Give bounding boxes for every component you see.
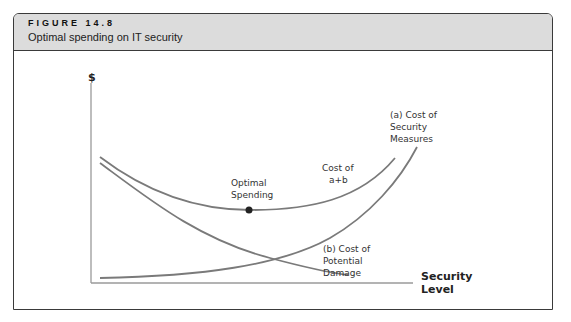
curve-cost-potential-damage: [100, 163, 348, 275]
label-a-line1: (a) Cost of: [390, 110, 438, 120]
label-a-line3: Measures: [390, 134, 433, 144]
label-b-line1: (b) Cost of: [323, 244, 371, 254]
optimal-point-marker: [246, 207, 253, 214]
curve-cost-security-measures: [100, 147, 417, 278]
y-axis-label: $: [88, 71, 96, 84]
label-b-line2: Potential: [323, 256, 362, 266]
label-sum-line2: a+b: [329, 175, 348, 185]
label-optimal-line1: Optimal: [231, 178, 267, 188]
label-optimal-line2: Spending: [231, 190, 273, 200]
label-b-line3: Damage: [323, 268, 361, 278]
label-a-line2: Security: [390, 122, 428, 132]
x-axis-label-line2: Level: [421, 283, 454, 296]
x-axis-label-line1: Security: [421, 270, 472, 283]
chart-plot: $ Security Level (a) Cost of Security Me…: [0, 0, 571, 322]
label-sum-line1: Cost of: [322, 163, 354, 173]
